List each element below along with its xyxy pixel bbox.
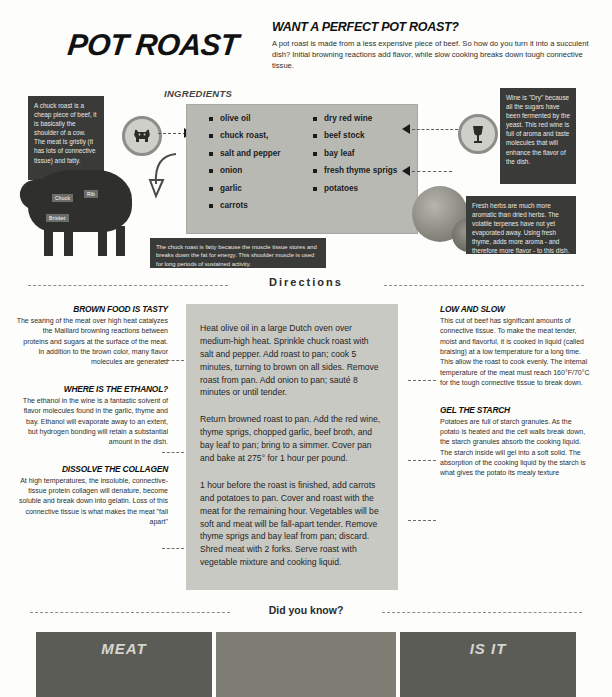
bullet-icon bbox=[209, 169, 213, 173]
ingredient-item: chuck roast, bbox=[209, 131, 313, 140]
infographic-page: POT ROAST WANT A PERFECT POT ROAST? A po… bbox=[0, 0, 612, 697]
did-you-know-label: Did you know? bbox=[0, 604, 612, 616]
science-body-brown-food: The searing of the meat over high heat c… bbox=[16, 316, 168, 368]
footer-panel-meat: MEAT bbox=[36, 632, 212, 697]
ingredients-label: INGREDIENTS bbox=[164, 88, 232, 99]
bullet-icon bbox=[313, 117, 317, 121]
cow-label-rib: Rib bbox=[84, 190, 98, 198]
intro-block: WANT A PERFECT POT ROAST? A pot roast is… bbox=[272, 20, 598, 71]
science-column-left: BROWN FOOD IS TASTY The searing of the m… bbox=[16, 304, 168, 543]
bullet-icon bbox=[313, 169, 317, 173]
ingredient-item: dry red wine bbox=[313, 114, 417, 123]
ingredient-label: olive oil bbox=[220, 114, 250, 123]
ingredient-item: onion bbox=[209, 166, 313, 175]
ingredient-item: garlic bbox=[209, 184, 313, 193]
intro-heading: WANT A PERFECT POT ROAST? bbox=[272, 20, 598, 34]
footer-panel-photo bbox=[216, 632, 396, 697]
bullet-icon bbox=[313, 134, 317, 138]
recipe-step-2: Return browned roast to pan. Add the red… bbox=[200, 413, 384, 465]
ingredient-item: olive oil bbox=[209, 114, 313, 123]
cow-leg bbox=[98, 226, 107, 256]
dyk-line-right bbox=[382, 612, 582, 613]
cow-label-chuck: Chuck bbox=[52, 194, 73, 202]
science-heading-low-and-slow: LOW AND SLOW bbox=[440, 304, 592, 314]
connector-collagen bbox=[162, 548, 184, 549]
ingredient-label: carrots bbox=[220, 201, 248, 210]
bullet-icon bbox=[209, 204, 213, 208]
science-heading-collagen: DISSOLVE THE COLLAGEN bbox=[16, 464, 168, 474]
ingredient-label: onion bbox=[220, 166, 242, 175]
science-body-low-and-slow: This cut of beef has significant amounts… bbox=[440, 316, 592, 389]
connector-ethanol bbox=[162, 452, 184, 453]
recipe-step-1: Heat olive oil in a large Dutch oven ove… bbox=[200, 322, 384, 399]
connector-brown-food bbox=[162, 360, 184, 361]
bullet-icon bbox=[313, 187, 317, 191]
divider-line-right bbox=[384, 285, 584, 286]
science-body-collagen: At high temperatures, the insoluble, con… bbox=[16, 476, 168, 528]
science-heading-gel-the-starch: GEL THE STARCH bbox=[440, 405, 592, 415]
recipe-step-3: 1 hour before the roast is finished, add… bbox=[200, 479, 384, 569]
ingredient-item: salt and pepper bbox=[209, 149, 313, 158]
ingredients-box: olive oil chuck roast, salt and pepper o… bbox=[186, 104, 418, 234]
connector-starch bbox=[408, 520, 436, 521]
cow-leg bbox=[116, 226, 125, 256]
callout-fresh-herbs: Fresh herbs are much more aromatic than … bbox=[466, 196, 576, 254]
ingredient-label: beef stock bbox=[324, 131, 365, 140]
ingredients-column-left: olive oil chuck roast, salt and pepper o… bbox=[209, 114, 313, 233]
cow-label-brisket: Brisket bbox=[46, 214, 69, 222]
cow-diagram: Chuck Rib Brisket bbox=[22, 150, 142, 262]
footer-panel-meat-title: MEAT bbox=[36, 640, 212, 657]
ingredient-label: fresh thyme sprigs bbox=[324, 166, 397, 175]
bullet-icon bbox=[209, 152, 213, 156]
curved-arrow-icon bbox=[146, 150, 186, 210]
callout-fat: The chuck roast is fatty because the mus… bbox=[150, 238, 326, 268]
science-heading-brown-food: BROWN FOOD IS TASTY bbox=[16, 304, 168, 314]
connector-wine bbox=[412, 129, 458, 130]
footer-panel-is-it-title: IS IT bbox=[400, 640, 576, 657]
bullet-icon bbox=[313, 152, 317, 156]
ingredient-label: dry red wine bbox=[324, 114, 372, 123]
arrow-from-herbs bbox=[402, 166, 410, 176]
recipe-steps-box: Heat olive oil in a large Dutch oven ove… bbox=[186, 304, 398, 590]
connector-low-and-slow bbox=[408, 380, 436, 381]
science-heading-ethanol: WHERE IS THE ETHANOL? bbox=[16, 384, 168, 394]
directions-label: Directions bbox=[0, 276, 612, 288]
ingredient-label: garlic bbox=[220, 184, 242, 193]
ingredient-label: chuck roast, bbox=[220, 131, 268, 140]
callout-wine: Wine is "Dry" because all the sugars hav… bbox=[500, 88, 576, 184]
bullet-icon bbox=[209, 134, 213, 138]
ingredient-label: potatoes bbox=[324, 184, 358, 193]
connector-herbs bbox=[412, 171, 452, 172]
ingredient-label: salt and pepper bbox=[220, 149, 281, 158]
arrow-from-wine bbox=[402, 124, 410, 134]
page-title: POT ROAST bbox=[46, 28, 260, 62]
wine-glass-icon bbox=[458, 114, 498, 154]
ingredient-label: bay leaf bbox=[324, 149, 355, 158]
bullet-icon bbox=[209, 187, 213, 191]
science-body-ethanol: The ethanol in the wine is a fantastic s… bbox=[16, 396, 168, 448]
footer-panel-is-it: IS IT bbox=[400, 632, 576, 697]
science-body-gel-the-starch: Potatoes are full of starch granules. As… bbox=[440, 417, 592, 479]
did-you-know-divider: Did you know? bbox=[0, 604, 612, 626]
ingredient-item: potatoes bbox=[313, 184, 417, 193]
connector-cow-to-ingredients bbox=[158, 133, 186, 134]
cow-leg bbox=[44, 226, 53, 256]
intro-body: A pot roast is made from a less expensiv… bbox=[272, 38, 598, 71]
connector-tissue bbox=[408, 460, 436, 461]
directions-divider: Directions bbox=[0, 276, 612, 296]
cow-leg bbox=[64, 226, 73, 256]
science-column-right: LOW AND SLOW This cut of beef has signif… bbox=[440, 304, 592, 495]
ingredient-item: bay leaf bbox=[313, 149, 417, 158]
ingredient-item: carrots bbox=[209, 201, 313, 210]
bullet-icon bbox=[209, 117, 213, 121]
